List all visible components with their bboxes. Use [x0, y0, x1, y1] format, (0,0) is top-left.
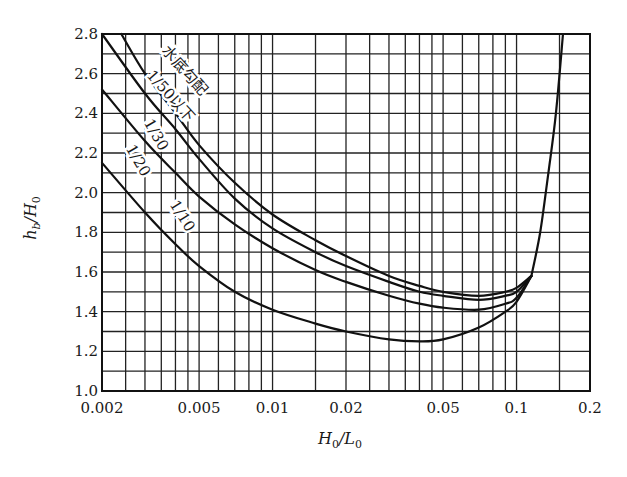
y-axis-label: hb/H0	[21, 196, 43, 240]
y-axis-ticks: 1.01.21.41.61.82.02.22.42.62.8	[74, 25, 98, 400]
curve-labels: 水底勾配1/50以下1/301/201/10	[122, 42, 211, 235]
x-axis-label: H0/L0	[317, 429, 362, 451]
curves	[102, 34, 563, 341]
y-tick-label: 2.8	[74, 25, 98, 43]
y-tick-label: 2.0	[74, 184, 98, 202]
y-tick-label: 1.0	[74, 382, 98, 400]
x-tick-label: 0.01	[256, 399, 289, 417]
curve-4	[531, 34, 563, 276]
x-tick-label: 0.002	[81, 399, 124, 417]
x-tick-label: 0.1	[505, 399, 529, 417]
x-axis-ticks: 0.0020.0050.010.020.050.10.2	[81, 399, 602, 417]
y-tick-label: 2.4	[74, 104, 98, 122]
x-tick-label: 0.05	[426, 399, 459, 417]
x-tick-label: 0.005	[178, 399, 221, 417]
y-tick-label: 1.4	[74, 303, 98, 321]
y-tick-label: 1.6	[74, 263, 98, 281]
breaker-height-chart: 水底勾配1/50以下1/301/201/10 0.0020.0050.010.0…	[0, 0, 627, 477]
y-tick-label: 1.2	[74, 342, 98, 360]
curve-2	[102, 90, 531, 310]
x-tick-label: 0.2	[578, 399, 602, 417]
curve-label: 1/10	[166, 197, 199, 235]
y-tick-label: 2.6	[74, 65, 98, 83]
x-tick-label: 0.02	[329, 399, 362, 417]
y-tick-label: 2.2	[74, 144, 98, 162]
y-tick-label: 1.8	[74, 223, 98, 241]
